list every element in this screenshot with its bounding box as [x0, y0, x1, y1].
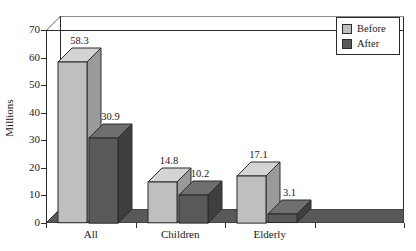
y-axis-tick-label: 60: [14, 52, 40, 63]
y-axis-tick-mark: [41, 140, 46, 141]
bar-value-label: 3.1: [270, 187, 310, 198]
bar-value-label: 17.1: [239, 149, 279, 160]
x-axis-tick-mark: [315, 223, 316, 228]
y-axis-tick-label: 40: [14, 107, 40, 118]
legend: Before After: [336, 17, 400, 55]
bar-after-all[interactable]: [89, 124, 132, 223]
x-axis-tick-mark: [404, 223, 405, 228]
y-axis-tick-label: 70: [14, 24, 40, 35]
grid-depth-line: [46, 16, 61, 31]
bar-value-label: 14.8: [149, 155, 189, 166]
y-axis-tick-mark: [41, 30, 46, 31]
bar-chart: 010203040506070 Millions 58.330.914.810.…: [0, 0, 416, 251]
x-axis-label-children: Children: [145, 228, 215, 240]
legend-item-before[interactable]: Before: [342, 21, 399, 36]
y-axis-tick-label: 50: [14, 79, 40, 90]
y-axis-title: Millions: [3, 88, 15, 148]
y-axis-tick-label: 20: [14, 162, 40, 173]
x-axis-tick-mark: [136, 223, 137, 228]
bar-value-label: 58.3: [60, 35, 100, 46]
x-axis-label-all: All: [56, 228, 126, 240]
x-axis-tick-mark: [46, 223, 47, 228]
y-axis-tick-label: 30: [14, 134, 40, 145]
y-axis-front: [46, 30, 47, 223]
y-axis-tick-mark: [41, 85, 46, 86]
y-axis-tick-label: 0: [14, 217, 40, 228]
y-axis-tick-label: 10: [14, 189, 40, 200]
bar-value-label: 30.9: [91, 111, 131, 122]
y-axis-tick-mark: [41, 113, 46, 114]
legend-item-after[interactable]: After: [342, 36, 399, 51]
bar-after-children[interactable]: [179, 181, 222, 223]
x-axis-label-elderly: Elderly: [235, 228, 305, 240]
y-axis-tick-mark: [41, 168, 46, 169]
bar-after-elderly[interactable]: [268, 200, 311, 223]
legend-label-after: After: [357, 38, 379, 49]
legend-label-before: Before: [357, 23, 386, 34]
legend-swatch-before: [342, 24, 352, 34]
bar-value-label: 10.2: [180, 168, 220, 179]
x-axis-tick-mark: [225, 223, 226, 228]
y-axis-tick-mark: [41, 195, 46, 196]
legend-swatch-after: [342, 39, 352, 49]
y-axis-tick-mark: [41, 58, 46, 59]
